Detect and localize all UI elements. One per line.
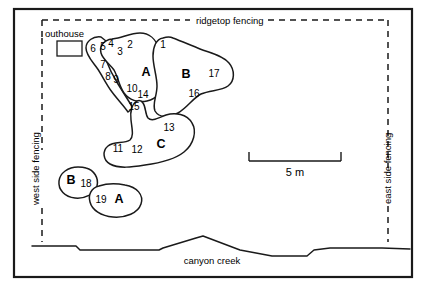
cluster-letter-b-lower: B <box>66 173 75 187</box>
outhouse-structure <box>57 41 82 56</box>
cluster-letter-a-lower: A <box>114 192 123 206</box>
cluster-letter-c: C <box>156 137 165 151</box>
scale-bar-label: 5 m <box>286 166 304 178</box>
feature-number: 14 <box>137 89 149 100</box>
feature-number: 18 <box>80 178 92 189</box>
scale-bar <box>249 152 341 161</box>
feature-number: 6 <box>90 43 96 54</box>
feature-number: 11 <box>113 143 124 154</box>
feature-number: 17 <box>208 68 220 79</box>
canyon-creek-line <box>32 236 410 256</box>
feature-number: 13 <box>163 122 175 133</box>
east-side-fencing-label: east side fencing <box>382 133 393 204</box>
feature-number: 5 <box>100 41 106 52</box>
feature-number: 9 <box>113 74 119 85</box>
cluster-letter-b-upper: B <box>181 67 190 81</box>
feature-number: 8 <box>105 71 111 82</box>
feature-number: 2 <box>127 39 133 50</box>
outhouse-label: outhouse <box>45 28 84 39</box>
feature-number: 16 <box>188 88 200 99</box>
map-canvas: ridgetop fencing west side fencing east … <box>0 0 426 288</box>
feature-number: 3 <box>117 46 123 57</box>
feature-number: 7 <box>100 59 106 70</box>
feature-number: 19 <box>95 194 107 205</box>
feature-number: 1 <box>160 39 166 50</box>
cluster-letter-a-upper: A <box>141 65 150 79</box>
canyon-creek-label: canyon creek <box>184 255 241 266</box>
feature-number: 10 <box>126 83 138 94</box>
feature-number: 12 <box>131 144 143 155</box>
feature-number: 4 <box>108 38 114 49</box>
feature-number: 15 <box>128 101 140 112</box>
map-frame-border <box>14 9 412 277</box>
site-map-figure: ridgetop fencing west side fencing east … <box>0 0 426 288</box>
west-side-fencing-label: west side fencing <box>30 132 41 206</box>
ridgetop-fencing-label: ridgetop fencing <box>196 15 264 26</box>
